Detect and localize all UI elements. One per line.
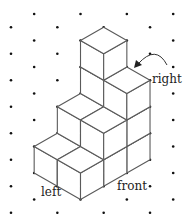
grid-dot [172,172,175,175]
grid-dot [10,211,13,214]
grid-dot [149,26,152,29]
grid-dot [10,79,13,82]
cube-stack [34,27,150,199]
grid-dot [33,92,36,95]
grid-dot [10,185,13,188]
grid-dot [172,145,175,148]
grid-dot [172,13,175,16]
grid-dot [10,52,13,55]
grid-dot [56,52,59,55]
grid-dot [126,198,129,201]
right-view-label: right [152,73,182,85]
grid-dot [56,79,59,82]
grid-dot [149,211,152,214]
curved-arrow-icon [134,54,167,68]
grid-dot [102,211,105,214]
front-view-label: front [117,180,147,192]
grid-dot [172,198,175,201]
grid-dot [79,13,82,16]
grid-dot [172,119,175,122]
grid-dot [56,211,59,214]
grid-dot [33,13,36,16]
grid-dot [10,158,13,161]
grid-dot [10,105,13,108]
grid-dot [33,39,36,42]
left-view-label: left [41,186,61,198]
grid-dot [56,26,59,29]
isometric-dot-grid-figure [0,0,186,214]
grid-dot [33,66,36,69]
grid-dot [149,185,152,188]
grid-dot [10,26,13,29]
grid-dot [126,13,129,16]
grid-dot [10,132,13,135]
grid-dot [33,198,36,201]
grid-dot [172,92,175,95]
grid-dot [33,119,36,122]
grid-dot [172,66,175,69]
grid-dot [172,39,175,42]
